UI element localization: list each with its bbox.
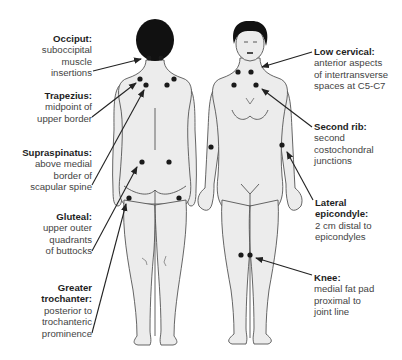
anterior-head bbox=[233, 21, 267, 61]
dot-epicondyle-left bbox=[208, 144, 213, 149]
anterior-figure bbox=[198, 58, 302, 344]
posterior-left-leg bbox=[124, 200, 156, 345]
dot-occiput-right bbox=[159, 56, 164, 61]
label-greater-trochanter: Greater trochanter: posterior to trochan… bbox=[0, 282, 92, 339]
leader-low-cervical bbox=[262, 52, 312, 67]
label-knee-title: Knee: bbox=[314, 272, 402, 283]
anterior-torso bbox=[213, 58, 288, 206]
anterior-right-leg bbox=[222, 200, 251, 344]
dot-trochanter-left bbox=[126, 195, 131, 200]
label-lateral-epicondyle: Lateral epicondyle: 2 cm distal to epico… bbox=[315, 197, 402, 243]
posterior-figure bbox=[113, 60, 197, 345]
dot-second-rib-left bbox=[231, 82, 236, 87]
posterior-head-hair bbox=[136, 19, 174, 61]
dot-gluteal-left bbox=[139, 159, 144, 164]
label-gluteal: Gluteal: upper outer quadrants of buttoc… bbox=[0, 211, 92, 257]
label-occiput-title: Occiput: bbox=[0, 33, 92, 44]
label-trapezius-title: Trapezius: bbox=[0, 90, 92, 101]
dot-gluteal-right bbox=[166, 159, 171, 164]
dot-epicondyle-right bbox=[279, 142, 284, 147]
dot-trapezius-right bbox=[171, 76, 176, 81]
label-trapezius: Trapezius: midpoint of upper border bbox=[0, 90, 92, 124]
dot-supraspinatus-right bbox=[164, 82, 169, 87]
label-second-rib-title: Second rib: bbox=[314, 121, 402, 132]
dot-trapezius-left bbox=[137, 76, 142, 81]
label-occiput: Occiput: suboccipital muscle insertions bbox=[0, 33, 92, 79]
dot-low-cervical-right bbox=[248, 69, 253, 74]
dot-low-cervical-left bbox=[235, 69, 240, 74]
label-lateral-epicondyle-title-2: epicondyle: bbox=[315, 208, 402, 219]
label-supraspinatus: Supraspinatus: above medial border of sc… bbox=[0, 147, 92, 193]
posterior-right-leg bbox=[155, 200, 186, 345]
leader-occiput bbox=[93, 59, 141, 71]
label-lateral-epicondyle-title-1: Lateral bbox=[315, 197, 402, 208]
label-low-cervical-title: Low cervical: bbox=[314, 46, 402, 57]
leader-trochanter bbox=[92, 204, 126, 333]
label-low-cervical: Low cervical: anterior aspects of intert… bbox=[314, 46, 402, 92]
label-second-rib: Second rib: second costochondral junctio… bbox=[314, 121, 402, 167]
label-greater-trochanter-title-1: Greater bbox=[0, 282, 92, 293]
dot-second-rib-right bbox=[253, 82, 258, 87]
dot-knee-left bbox=[238, 252, 243, 257]
label-gluteal-title: Gluteal: bbox=[0, 211, 92, 222]
label-greater-trochanter-title-2: trochanter: bbox=[0, 293, 92, 304]
dot-supraspinatus-left bbox=[143, 82, 148, 87]
label-supraspinatus-title: Supraspinatus: bbox=[0, 147, 92, 158]
dot-occiput-left bbox=[147, 56, 152, 61]
dot-knee-right bbox=[247, 252, 252, 257]
anterior-left-leg bbox=[249, 200, 278, 344]
label-knee: Knee: medial fat pad proximal to joint l… bbox=[314, 272, 402, 318]
dot-trochanter-right bbox=[176, 195, 181, 200]
